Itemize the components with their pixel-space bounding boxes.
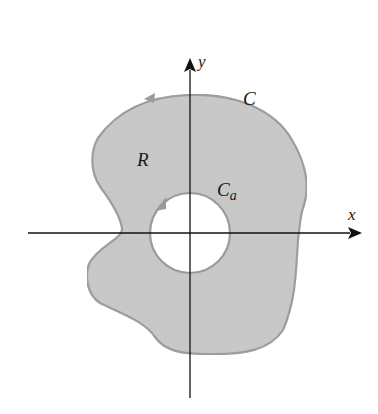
inner-curve-label-main: C	[217, 179, 230, 200]
x-axis-arrowhead-icon	[348, 227, 362, 239]
region-r	[87, 95, 307, 354]
y-axis-arrowhead-icon	[184, 58, 196, 72]
y-axis-label: y	[198, 53, 206, 70]
inner-curve-label: Ca	[217, 180, 237, 203]
inner-curve-label-subscript: a	[230, 188, 237, 203]
region-label: R	[137, 150, 149, 169]
outer-curve-label: C	[243, 89, 256, 108]
x-axis-label: x	[348, 206, 356, 223]
green-theorem-region-diagram	[0, 0, 378, 414]
